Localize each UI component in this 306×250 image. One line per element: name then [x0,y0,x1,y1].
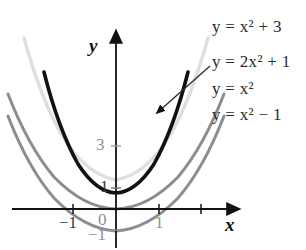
y-tick-label-minus-1: −1 [88,226,106,243]
parabola-family-figure: y x −1 0 1 3 1 −1 y = x² + 3 y = 2x² + 1… [0,0,306,250]
legend-label-y-equals-x2-minus-1: y = x² − 1 [212,106,282,123]
x-axis-label: x [225,215,235,234]
y-tick-label-3: 3 [96,136,105,153]
legend-label-y-equals-x2: y = x² [212,80,254,97]
plot-canvas [0,0,306,250]
x-tick-label-minus-1: −1 [59,214,77,231]
legend-label-y-equals-2x2-plus-1: y = 2x² + 1 [212,53,291,70]
y-tick-label-1: 1 [100,178,109,195]
x-tick-label-1: 1 [155,214,164,231]
y-axis-label: y [89,36,97,55]
legend-label-y-equals-x2-plus-3: y = x² + 3 [212,18,282,35]
